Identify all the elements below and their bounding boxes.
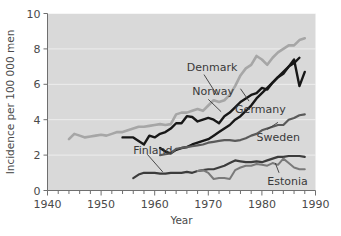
- series-label-finland: Finland: [133, 144, 172, 157]
- y-tick-label-0: 0: [34, 185, 41, 198]
- y-tick-label-4: 4: [34, 114, 41, 127]
- x-tick-label-1970: 1970: [194, 198, 222, 211]
- incidence-line-chart: 0246810 194019501960197019801990 Denmark…: [0, 0, 341, 236]
- x-tick-label-1940: 1940: [34, 198, 62, 211]
- y-axis-title: Incidence per 100 000 men: [4, 30, 16, 175]
- series-label-denmark: Denmark: [187, 61, 238, 74]
- x-tick-label-1980: 1980: [248, 198, 276, 211]
- x-tick-label-1990: 1990: [302, 198, 330, 211]
- series-label-sweden: Sweden: [257, 131, 300, 144]
- y-tick-label-10: 10: [27, 8, 41, 21]
- x-tick-label-1950: 1950: [87, 198, 115, 211]
- series-label-norway: Norway: [192, 85, 234, 98]
- y-tick-label-6: 6: [34, 78, 41, 91]
- series-label-estonia: Estonia: [267, 175, 308, 188]
- x-axis-title: Year: [169, 214, 193, 226]
- y-tick-label-8: 8: [34, 43, 41, 56]
- y-tick-label-2: 2: [34, 149, 41, 162]
- chart-figure: 0246810 194019501960197019801990 Denmark…: [0, 0, 341, 236]
- series-label-germany: Germany: [235, 103, 286, 116]
- x-tick-label-1960: 1960: [141, 198, 169, 211]
